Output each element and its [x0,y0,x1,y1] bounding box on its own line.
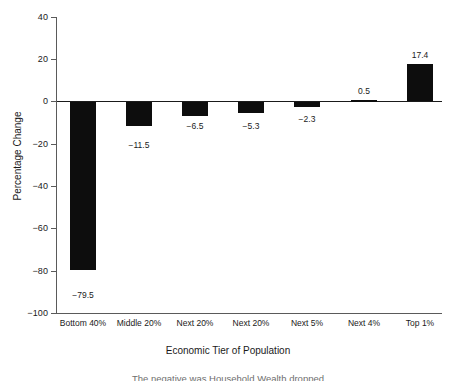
y-tick-mark [51,271,57,272]
x-axis-line [56,313,442,314]
bar-value-label: −11.5 [114,141,164,150]
y-tick-label: −40 [16,182,48,191]
x-axis-title: Economic Tier of Population [0,345,456,357]
bar-next-4[interactable] [351,100,377,102]
y-tick-label: −100 [12,309,48,318]
y-tick-label: −60 [16,224,48,233]
bar-next-20-a[interactable] [182,102,208,116]
x-tick-label-top-1: Top 1% [385,318,455,328]
y-tick-mark [51,186,57,187]
bar-value-label: −6.5 [170,122,220,131]
bar-chart-figure: Percentage Change 40 20 0 −20 −40 −60 −8… [0,0,456,381]
bar-next-5[interactable] [294,102,320,107]
figure-caption-truncated: The negative was Household Wealth droppe… [0,373,456,381]
y-axis-line [56,17,57,314]
bar-top-1[interactable] [407,64,433,101]
y-tick-mark [51,144,57,145]
y-tick-label: 0 [16,97,48,106]
bar-bottom-40[interactable] [70,102,96,270]
y-tick-mark [51,313,57,314]
y-tick-mark [51,228,57,229]
bar-value-label: −5.3 [226,122,276,131]
y-tick-label: −80 [16,267,48,276]
y-tick-mark [51,59,57,60]
bar-next-20-b[interactable] [238,102,264,113]
bar-middle-20[interactable] [126,102,152,126]
bar-value-label: −2.3 [282,115,332,124]
y-tick-label: 20 [16,55,48,64]
bar-value-label: 0.5 [339,87,389,96]
y-tick-mark [51,17,57,18]
bar-value-label: 17.4 [395,51,445,60]
y-tick-label: −20 [16,140,48,149]
bar-value-label: −79.5 [58,291,108,300]
y-tick-label: 40 [16,13,48,22]
